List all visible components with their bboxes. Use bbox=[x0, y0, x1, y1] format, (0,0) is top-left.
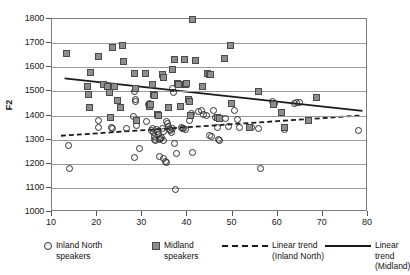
data-point-midland bbox=[117, 104, 124, 111]
data-point-midland bbox=[281, 124, 288, 131]
data-point-midland bbox=[95, 53, 102, 60]
data-point-inland-north bbox=[95, 117, 102, 124]
x-tick-mark bbox=[367, 211, 368, 216]
data-point-midland bbox=[132, 85, 139, 92]
x-tick-mark bbox=[141, 211, 142, 216]
gridline bbox=[52, 164, 366, 165]
data-point-midland bbox=[228, 100, 235, 107]
y-tick-label: 1600 bbox=[25, 61, 44, 71]
data-point-midland bbox=[175, 81, 182, 88]
data-point-midland bbox=[221, 55, 228, 62]
solid-line-swatch bbox=[325, 245, 371, 247]
data-point-midland bbox=[147, 101, 154, 108]
legend-label: Midland speakers bbox=[164, 240, 199, 261]
x-tick-mark bbox=[186, 211, 187, 216]
x-tick-label: 70 bbox=[317, 217, 327, 227]
y-tick-label: 1100 bbox=[25, 182, 44, 192]
data-point-midland bbox=[313, 94, 320, 101]
data-point-midland bbox=[171, 56, 178, 63]
y-tick-label: 1500 bbox=[25, 85, 44, 95]
legend-item[interactable]: Midland speakers bbox=[152, 240, 199, 261]
data-point-midland bbox=[255, 88, 262, 95]
legend-item[interactable]: Linear trend (Midland) bbox=[325, 240, 410, 272]
data-point-inland-north bbox=[66, 165, 73, 172]
data-point-midland bbox=[151, 92, 158, 99]
y-axis-title: F2 bbox=[4, 100, 14, 111]
x-tick-mark bbox=[322, 211, 323, 216]
plot-area bbox=[51, 18, 367, 211]
x-tick-label: 80 bbox=[362, 217, 372, 227]
dashed-line-swatch bbox=[222, 245, 268, 247]
data-point-inland-north bbox=[236, 124, 243, 131]
y-tick-label: 1200 bbox=[25, 158, 44, 168]
data-point-midland bbox=[207, 71, 214, 78]
x-tick-label: 10 bbox=[46, 217, 56, 227]
y-axis: 100011001200130014001500160017001800 bbox=[0, 0, 51, 275]
data-point-inland-north bbox=[169, 125, 176, 132]
x-tick-label: 60 bbox=[272, 217, 282, 227]
data-point-inland-north bbox=[355, 127, 362, 134]
data-point-midland bbox=[216, 115, 223, 122]
data-point-midland bbox=[131, 70, 138, 77]
data-point-midland bbox=[120, 58, 127, 65]
data-point-midland bbox=[305, 117, 312, 124]
x-tick-label: 50 bbox=[227, 217, 237, 227]
x-tick-label: 40 bbox=[181, 217, 191, 227]
filled-square-swatch bbox=[152, 242, 160, 250]
gridline bbox=[52, 140, 366, 141]
y-tick-label: 1300 bbox=[25, 134, 44, 144]
y-tick-label: 1800 bbox=[25, 13, 44, 23]
data-point-midland bbox=[160, 74, 167, 81]
data-point-midland bbox=[192, 57, 199, 64]
data-point-inland-north bbox=[257, 165, 264, 172]
data-point-midland bbox=[119, 42, 126, 49]
data-point-midland bbox=[165, 104, 172, 111]
gridline bbox=[52, 43, 366, 44]
data-point-midland bbox=[181, 56, 188, 63]
legend-label: Inland North speakers bbox=[56, 240, 102, 261]
data-point-midland bbox=[86, 104, 93, 111]
data-point-midland bbox=[111, 83, 118, 90]
data-point-midland bbox=[169, 66, 176, 73]
x-tick-label: 30 bbox=[136, 217, 146, 227]
gridline bbox=[52, 91, 366, 92]
y-tick-label: 1000 bbox=[25, 206, 44, 216]
y-tick-label: 1700 bbox=[25, 37, 44, 47]
legend-item[interactable]: Inland North speakers bbox=[44, 240, 102, 261]
data-point-midland bbox=[155, 112, 162, 119]
gridline bbox=[52, 67, 366, 68]
data-point-inland-north bbox=[65, 142, 72, 149]
open-circle-swatch bbox=[44, 242, 52, 250]
legend-label: Linear trend (Inland North) bbox=[272, 240, 324, 261]
data-point-midland bbox=[227, 42, 234, 49]
legend-item[interactable]: Linear trend (Inland North) bbox=[222, 240, 324, 261]
x-tick-label: 20 bbox=[91, 217, 101, 227]
gridline bbox=[52, 188, 366, 189]
data-point-inland-north bbox=[214, 124, 221, 131]
data-point-midland bbox=[199, 83, 206, 90]
data-point-midland bbox=[107, 114, 114, 121]
data-point-midland bbox=[183, 80, 190, 87]
chart-legend: Inland North speakersMidland speakersLin… bbox=[0, 240, 383, 275]
y-tick-label: 1400 bbox=[25, 110, 44, 120]
data-point-midland bbox=[85, 91, 92, 98]
data-point-midland bbox=[149, 81, 156, 88]
x-tick-mark bbox=[51, 211, 52, 216]
data-point-midland bbox=[278, 109, 285, 116]
data-point-midland bbox=[63, 50, 70, 57]
x-tick-mark bbox=[96, 211, 97, 216]
data-point-midland bbox=[246, 124, 253, 131]
data-point-inland-north bbox=[163, 159, 170, 166]
data-point-midland bbox=[109, 44, 116, 51]
data-point-midland bbox=[187, 112, 194, 119]
data-point-inland-north bbox=[143, 118, 150, 125]
data-point-midland bbox=[270, 101, 277, 108]
data-point-inland-north bbox=[182, 126, 189, 133]
data-point-inland-north bbox=[255, 125, 262, 132]
x-tick-mark bbox=[232, 211, 233, 216]
legend-label: Linear trend (Midland) bbox=[375, 240, 410, 272]
data-point-midland bbox=[177, 103, 184, 110]
data-point-midland bbox=[186, 98, 193, 105]
data-point-midland bbox=[189, 16, 196, 23]
